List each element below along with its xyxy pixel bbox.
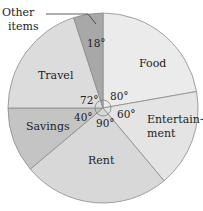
- degree-savings: 40°: [74, 111, 93, 123]
- label-savings: Savings: [26, 120, 70, 133]
- label-entertainment-line1: Entertain-: [147, 113, 203, 126]
- degree-entertainment: 60°: [117, 108, 136, 120]
- degree-other: 18°: [87, 37, 106, 49]
- label-other-line1: Other: [2, 6, 35, 19]
- label-other-line2: items: [8, 20, 39, 33]
- label-entertainment-line2: ment: [147, 127, 176, 140]
- degree-food: 80°: [110, 90, 129, 102]
- degree-travel: 72°: [80, 94, 99, 106]
- label-rent: Rent: [88, 154, 115, 167]
- pie-chart: Other items 18° Food Travel Entertain- m…: [0, 0, 203, 211]
- degree-rent: 90°: [96, 117, 115, 129]
- label-travel: Travel: [38, 69, 74, 82]
- label-food: Food: [139, 57, 166, 70]
